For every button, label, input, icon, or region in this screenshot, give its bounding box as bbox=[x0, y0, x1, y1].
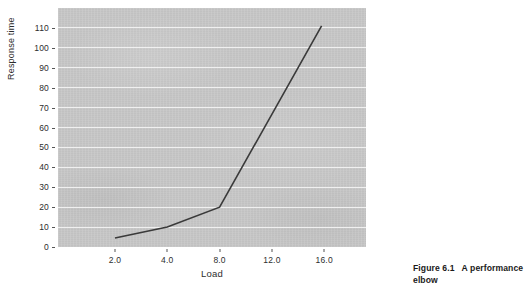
y-tick-label: 70 bbox=[39, 104, 49, 113]
data-line-svg bbox=[58, 8, 366, 247]
y-tick-mark bbox=[52, 207, 55, 208]
figure-caption-number: Figure 6.1 bbox=[413, 263, 455, 273]
y-tick-mark bbox=[52, 167, 55, 168]
y-tick-label: 90 bbox=[39, 64, 49, 73]
x-tick-label: 12.0 bbox=[263, 256, 280, 265]
x-tick-label: 16.0 bbox=[316, 256, 333, 265]
y-tick-label: 80 bbox=[39, 84, 49, 93]
y-tick-mark bbox=[52, 68, 55, 69]
x-tick-mark bbox=[324, 249, 325, 252]
y-tick-label: 50 bbox=[39, 143, 49, 152]
x-axis-title: Load bbox=[201, 268, 223, 279]
y-tick-label: 100 bbox=[34, 44, 49, 53]
y-tick-label: 10 bbox=[39, 223, 49, 232]
y-tick-mark bbox=[52, 88, 55, 89]
x-tick-label: 8.0 bbox=[213, 256, 225, 265]
y-tick-label: 0 bbox=[44, 243, 49, 252]
y-tick-mark bbox=[52, 227, 55, 228]
y-tick-label: 40 bbox=[39, 163, 49, 172]
plot-area bbox=[58, 8, 366, 247]
series-line-response-time bbox=[115, 26, 322, 238]
x-tick-mark bbox=[167, 249, 168, 252]
figure-caption: Figure 6.1A performance elbow bbox=[413, 262, 525, 286]
y-axis-title: Response time bbox=[6, 17, 16, 80]
y-tick-mark bbox=[52, 147, 55, 148]
y-tick-label: 30 bbox=[39, 183, 49, 192]
x-tick-label: 2.0 bbox=[109, 256, 121, 265]
y-tick-mark bbox=[52, 247, 55, 248]
x-tick-mark bbox=[271, 249, 272, 252]
y-tick-mark bbox=[52, 28, 55, 29]
y-tick-mark bbox=[52, 48, 55, 49]
y-tick-mark bbox=[52, 128, 55, 129]
y-tick-label: 110 bbox=[35, 24, 49, 33]
y-tick-mark bbox=[52, 187, 55, 188]
y-tick-label: 60 bbox=[39, 124, 49, 133]
y-tick-mark bbox=[52, 108, 55, 109]
x-tick-mark bbox=[115, 249, 116, 252]
x-tick-label: 4.0 bbox=[161, 256, 173, 265]
x-tick-mark bbox=[219, 249, 220, 252]
y-tick-label: 20 bbox=[39, 203, 49, 212]
chart-block: 0102030405060708090100110 2.04.08.012.01… bbox=[0, 0, 380, 301]
figure-root: 0102030405060708090100110 2.04.08.012.01… bbox=[0, 0, 529, 301]
